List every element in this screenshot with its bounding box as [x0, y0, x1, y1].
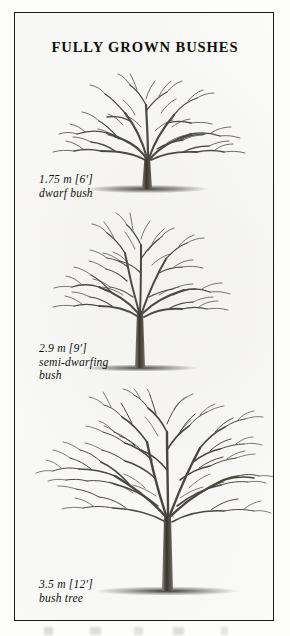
- caption-size: 3.5 m [12']: [39, 578, 93, 592]
- plate-title: FULLY GROWN BUSHES: [15, 39, 274, 56]
- caption-name: bush tree: [39, 592, 93, 606]
- trunk: [162, 516, 173, 591]
- caption-dwarf-bush: 1.75 m [6'] dwarf bush: [39, 173, 93, 200]
- trunk: [135, 311, 145, 368]
- bush-tree-drawing: [15, 388, 274, 598]
- caption-size: 1.75 m [6']: [39, 173, 93, 187]
- trunk: [142, 157, 152, 189]
- branches: [53, 213, 230, 317]
- caption-size: 2.9 m [9']: [39, 342, 109, 356]
- caption-name-line2: bush: [39, 369, 109, 383]
- caption-semi-dwarfing-bush: 2.9 m [9'] semi-dwarfing bush: [39, 342, 109, 383]
- figure-bush-tree: [15, 388, 274, 598]
- caption-bush-tree: 3.5 m [12'] bush tree: [39, 578, 93, 605]
- illustration-plate: FULLY GROWN BUSHES: [0, 0, 290, 636]
- plate-frame: FULLY GROWN BUSHES: [14, 12, 274, 621]
- page-bleed-marks: [30, 627, 260, 635]
- branches: [53, 74, 245, 160]
- caption-name-line1: semi-dwarfing: [39, 356, 109, 370]
- branches: [36, 389, 274, 522]
- caption-name: dwarf bush: [39, 187, 93, 201]
